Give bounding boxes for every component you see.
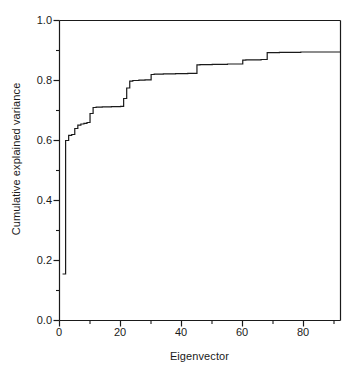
- data-series-cumulative-variance: [63, 52, 341, 274]
- x-major-ticks: [60, 321, 304, 327]
- chart-figure: Cumulative explained variance Eigenvecto…: [0, 0, 351, 371]
- plot-area: [0, 0, 351, 371]
